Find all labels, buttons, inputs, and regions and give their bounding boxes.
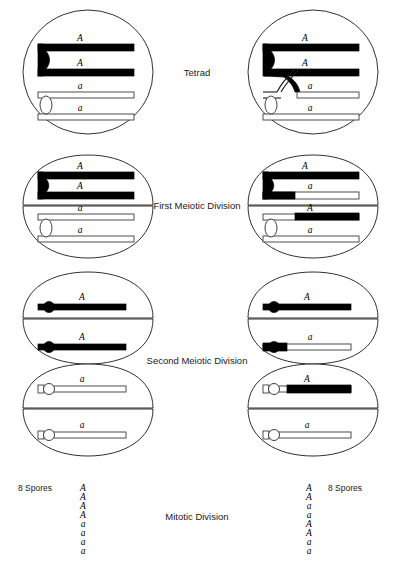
centromere-white-icon	[269, 384, 280, 395]
centromere-black-stem	[38, 44, 43, 76]
chromatid-black-1	[38, 44, 134, 51]
chromatid-recombinant-black-part	[287, 385, 351, 393]
stage-label-second-meiotic-division: Second Meiotic Division	[147, 355, 248, 366]
cell-outline	[23, 319, 153, 364]
allele-label: A	[76, 33, 83, 43]
cell-outline	[248, 272, 378, 318]
spores-count-label-right: 8 Spores	[328, 483, 362, 493]
centromere-black-icon	[269, 302, 280, 313]
centromere-black-icon	[44, 342, 55, 353]
chromatid-recombinant-black-part	[295, 213, 359, 220]
allele-label: a	[308, 332, 313, 342]
fmd-cell-left-top: A A	[23, 155, 153, 205]
centromere-white-icon	[265, 219, 277, 237]
spore-item: a	[81, 546, 86, 556]
stage-label-first-meiotic-division: First Meiotic Division	[153, 200, 240, 211]
allele-label: a	[308, 103, 313, 113]
allele-label: A	[306, 203, 313, 213]
smd-cell-left-2: A	[23, 319, 153, 364]
chromatid-black-2	[278, 69, 359, 76]
allele-label: A	[303, 292, 310, 302]
spore-item: a	[307, 546, 312, 556]
smd-cell-right-1: A	[248, 272, 378, 318]
fmd-cell-right-top: A a	[248, 155, 378, 205]
centromere-black-stem	[38, 172, 43, 199]
allele-label: a	[78, 81, 83, 91]
smd-cell-left-3: a	[23, 364, 153, 408]
allele-label: a	[78, 203, 83, 213]
chromatid-black-2	[38, 69, 134, 76]
allele-label: a	[78, 103, 83, 113]
spore-column-left: A A A A a a a a	[79, 483, 86, 556]
chromatid-white-2	[38, 114, 134, 120]
smd-cell-right-4: a	[248, 409, 378, 456]
stage-label-mitotic-division: Mitotic Division	[165, 511, 228, 522]
fmd-cell-right-bottom: A a	[248, 203, 378, 258]
allele-label: a	[80, 374, 85, 384]
row-first-meiotic-division: A A a a A a	[23, 155, 378, 258]
allele-label: a	[305, 420, 310, 430]
smd-cell-left-1: A	[23, 272, 153, 318]
allele-label: A	[78, 332, 85, 342]
allele-label: a	[308, 81, 313, 91]
chromatid-white-2	[263, 236, 359, 242]
allele-label: A	[303, 374, 310, 384]
centromere-black-icon	[269, 342, 280, 353]
allele-label: a	[308, 181, 313, 191]
centromere-white-icon	[44, 384, 55, 395]
row-tetrad: A A a a A	[23, 10, 378, 134]
chromatid-white-1	[38, 92, 134, 98]
chromatid-black-2	[38, 192, 134, 199]
allele-label: A	[78, 292, 85, 302]
chromatid-white-1	[297, 92, 359, 98]
allele-label: a	[78, 225, 83, 235]
spores-count-label-left: 8 Spores	[18, 483, 52, 493]
spore-column-right: A A a a A A a a	[305, 483, 312, 556]
chromatid-black-1	[263, 44, 359, 51]
chromatid-white-2	[38, 236, 134, 242]
cell-outline	[248, 319, 378, 364]
smd-cell-right-3: A	[248, 364, 378, 408]
row-mitotic-division: Mitotic Division 8 Spores A A A A a a a …	[18, 483, 362, 556]
allele-label: a	[308, 225, 313, 235]
tetrad-cell-left: A A a a	[23, 10, 153, 134]
tetrad-cell-right: A A a a	[248, 10, 378, 134]
allele-label: A	[301, 33, 308, 43]
chromatid-black-1	[263, 172, 359, 179]
centromere-white-icon	[44, 430, 55, 441]
smd-cell-left-4: a	[23, 409, 153, 456]
meiosis-diagram: A A a a A	[0, 0, 394, 568]
allele-label: A	[76, 181, 83, 191]
row-second-meiotic-division: A A a a	[23, 272, 378, 456]
centromere-white-icon	[40, 96, 52, 114]
centromere-white-icon	[265, 96, 277, 114]
centromere-black-stem	[263, 172, 268, 199]
allele-label: A	[301, 58, 308, 68]
allele-label: A	[301, 161, 308, 171]
chromatid-white-2	[263, 114, 359, 120]
centromere-black-icon	[44, 302, 55, 313]
centromere-white-icon	[40, 219, 52, 237]
chromatid-white-1	[38, 214, 134, 220]
fmd-cell-left-bottom: a a	[23, 203, 153, 258]
centromere-white-icon	[269, 430, 280, 441]
chromatid-black-1	[38, 172, 134, 179]
allele-label: A	[76, 58, 83, 68]
stage-label-tetrad: Tetrad	[184, 67, 210, 78]
allele-label: A	[76, 161, 83, 171]
cell-outline	[23, 272, 153, 318]
smd-cell-right-2: a	[248, 319, 378, 364]
allele-label: a	[80, 420, 85, 430]
